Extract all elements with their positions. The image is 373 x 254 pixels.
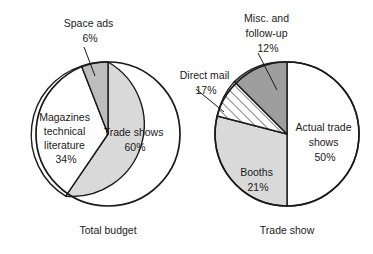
label-misc-line3: 12% [257, 42, 278, 54]
caption-trade-show: Trade show [260, 224, 315, 236]
label-direct-mail-line2: 17% [195, 84, 216, 96]
caption-total-budget: Total budget [79, 224, 136, 236]
slice-actual-trade-shows[interactable] [287, 62, 359, 206]
label-magazines-line2: technical [44, 125, 85, 137]
label-booths-line2: 21% [247, 181, 268, 193]
label-misc-and-follow-up: Misc. and follow-up 12% [244, 12, 292, 54]
label-misc-line2: follow-up [246, 27, 288, 39]
chart-trade-show: Misc. and follow-up 12% Direct mail 17% … [180, 12, 359, 236]
charts-svg: Space ads 6% Trade shows 60% Magazines t… [0, 0, 373, 254]
label-trade-shows-line2: 60% [124, 141, 145, 153]
label-trade-shows-line1: Trade shows [104, 126, 164, 138]
pie-chart-figure: Space ads 6% Trade shows 60% Magazines t… [0, 0, 373, 254]
label-magazines-line3: literature [44, 139, 85, 151]
label-actual-trade-shows-line1: Actual trade [296, 121, 352, 133]
label-direct-mail-line1: Direct mail [180, 69, 230, 81]
label-magazines-line4: 34% [55, 153, 76, 165]
label-misc-line1: Misc. and [244, 12, 289, 24]
chart-total-budget: Space ads 6% Trade shows 60% Magazines t… [31, 17, 180, 236]
label-booths-line1: Booths [240, 166, 273, 178]
label-space-ads-line2: 6% [82, 32, 97, 44]
label-space-ads-line1: Space ads [64, 17, 114, 29]
label-direct-mail: Direct mail 17% [180, 69, 233, 96]
label-actual-trade-shows-line2: shows [309, 136, 339, 148]
label-actual-trade-shows-line3: 50% [314, 151, 335, 163]
label-space-ads: Space ads 6% [64, 17, 117, 44]
label-magazines-line1: Magazines [39, 111, 90, 123]
